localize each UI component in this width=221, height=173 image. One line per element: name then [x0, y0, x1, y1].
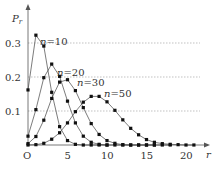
data-point — [74, 121, 77, 124]
x-tick-labels: 5101520 — [65, 150, 193, 161]
data-point — [121, 118, 124, 121]
data-point — [34, 108, 37, 111]
data-point — [82, 106, 85, 109]
data-point — [129, 127, 132, 130]
axes — [26, 4, 211, 148]
y-tick-label: 0.3 — [5, 38, 21, 49]
data-point — [74, 89, 77, 92]
data-point — [105, 139, 108, 142]
data-point — [192, 143, 195, 146]
y-tick-label: 0.1 — [5, 106, 21, 117]
svg-text:n=30: n=30 — [77, 77, 105, 88]
data-point — [66, 121, 69, 124]
data-point — [90, 122, 93, 125]
binomial-distribution-chart: Pr r O 0.10.20.3 5101520 n=10 n=20 n=30 … — [0, 0, 221, 173]
data-point — [129, 143, 132, 146]
y-axis-label: Pr — [11, 13, 23, 26]
series-label-n10: =10 — [46, 36, 67, 47]
data-point — [42, 76, 45, 79]
data-point — [34, 34, 37, 37]
data-point — [42, 119, 45, 122]
data-point — [42, 142, 45, 145]
series-n50 — [26, 95, 195, 147]
data-point — [26, 88, 29, 91]
series-label-n30: =30 — [83, 77, 104, 88]
x-axis-label: r — [206, 149, 212, 160]
data-point — [184, 143, 187, 146]
series-n10 — [26, 34, 108, 147]
data-point — [50, 138, 53, 141]
y-axis-label-sub: r — [19, 18, 23, 26]
data-point — [58, 131, 61, 134]
data-point — [66, 100, 69, 103]
data-point — [66, 139, 69, 142]
svg-text:n=50: n=50 — [104, 88, 132, 99]
data-point — [161, 142, 164, 145]
data-point — [34, 135, 37, 138]
data-point — [82, 143, 85, 146]
data-point — [98, 95, 101, 98]
series-n30 — [26, 78, 171, 146]
data-point — [50, 62, 53, 65]
data-point — [177, 143, 180, 146]
x-tick-label: 10 — [101, 150, 114, 161]
data-point — [137, 133, 140, 136]
x-tick-label: 20 — [180, 150, 193, 161]
data-point — [74, 110, 77, 113]
data-point — [66, 78, 69, 81]
data-point — [105, 100, 108, 103]
origin-label: O — [23, 150, 31, 161]
data-point — [98, 143, 101, 146]
data-point — [121, 143, 124, 146]
data-point — [145, 143, 148, 146]
data-point — [26, 135, 29, 138]
data-point — [105, 143, 108, 146]
data-point — [82, 135, 85, 138]
series-label-n50: =50 — [110, 88, 131, 99]
data-point — [137, 143, 140, 146]
series-n20 — [26, 62, 156, 146]
data-point — [169, 143, 172, 146]
svg-text:n=10: n=10 — [40, 36, 68, 47]
y-tick-labels: 0.10.20.3 — [5, 38, 21, 117]
data-point — [34, 143, 37, 146]
x-tick-label: 15 — [141, 150, 154, 161]
data-point — [113, 109, 116, 112]
data-point — [90, 141, 93, 144]
y-tick-label: 0.2 — [5, 72, 21, 83]
data-point — [58, 81, 61, 84]
data-point — [58, 125, 61, 128]
data-point — [113, 142, 116, 145]
data-point — [82, 101, 85, 104]
data-point — [145, 138, 148, 141]
data-point — [50, 91, 53, 94]
data-point — [50, 97, 53, 100]
data-point — [26, 143, 29, 146]
data-point — [153, 141, 156, 144]
data-point — [98, 133, 101, 136]
x-tick-label: 5 — [65, 150, 71, 161]
data-point — [90, 95, 93, 98]
data-point — [74, 143, 77, 146]
